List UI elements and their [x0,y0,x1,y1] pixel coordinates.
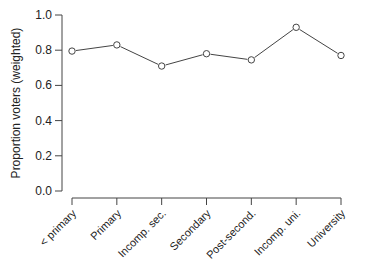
series-line-segment [120,47,158,65]
x-tick-label: Incomp. sec. [116,207,169,260]
x-tick-label: Primary [88,207,124,243]
plot-area [69,24,344,69]
x-tick-label: Incomp. uni. [252,207,303,258]
y-tick-label: 1.0 [35,8,52,22]
data-point-marker [158,63,164,69]
series-line-segment [210,54,247,59]
data-point-marker [203,51,209,57]
series-line-segment [166,55,203,65]
data-point-marker [69,48,75,54]
x-tick-label: Secondary [167,207,213,253]
y-tick-label: 0.2 [35,149,52,163]
y-axis-label: Proportion voters (weighted) [9,28,23,179]
y-tick-label: 0.4 [35,114,52,128]
data-point-marker [248,57,254,63]
series-line-segment [255,30,293,58]
series-line-segment [300,29,338,53]
y-tick-label: 0.8 [35,43,52,57]
x-tick-label: University [305,207,348,250]
y-axis: 0.00.20.40.60.81.0 [35,8,62,198]
data-point-marker [114,42,120,48]
x-axis: < primaryPrimaryIncomp. sec.SecondaryPos… [37,198,347,261]
y-tick-label: 0.6 [35,78,52,92]
line-chart: 0.00.20.40.60.81.0 < primaryPrimaryIncom… [0,0,373,276]
series-line-segment [76,45,113,50]
data-point-marker [338,52,344,58]
x-tick-label: < primary [37,207,78,248]
y-tick-label: 0.0 [35,184,52,198]
data-point-marker [293,24,299,30]
